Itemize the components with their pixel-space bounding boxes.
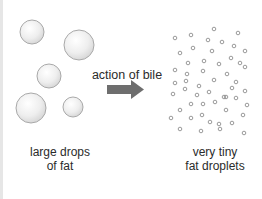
large-drops-label-line2: of fat — [20, 159, 100, 173]
large-fat-drops — [16, 20, 94, 123]
large-drops-label-line1: large drops — [20, 145, 100, 159]
fat-drop-2 — [64, 30, 94, 60]
bile-arrow-icon — [107, 80, 144, 99]
process-label: action of bile — [87, 68, 167, 82]
tiny-droplets-label: very tiny fat droplets — [175, 145, 255, 173]
fat-drop-5 — [63, 97, 83, 117]
tiny-fat-droplets — [169, 27, 249, 135]
tiny-droplets-label-line2: fat droplets — [175, 159, 255, 173]
fat-drop-3 — [37, 64, 61, 88]
fat-drop-1 — [20, 20, 44, 44]
fat-drop-4 — [16, 93, 46, 123]
large-drops-label: large drops of fat — [20, 145, 100, 173]
tiny-droplets-label-line1: very tiny — [175, 145, 255, 159]
